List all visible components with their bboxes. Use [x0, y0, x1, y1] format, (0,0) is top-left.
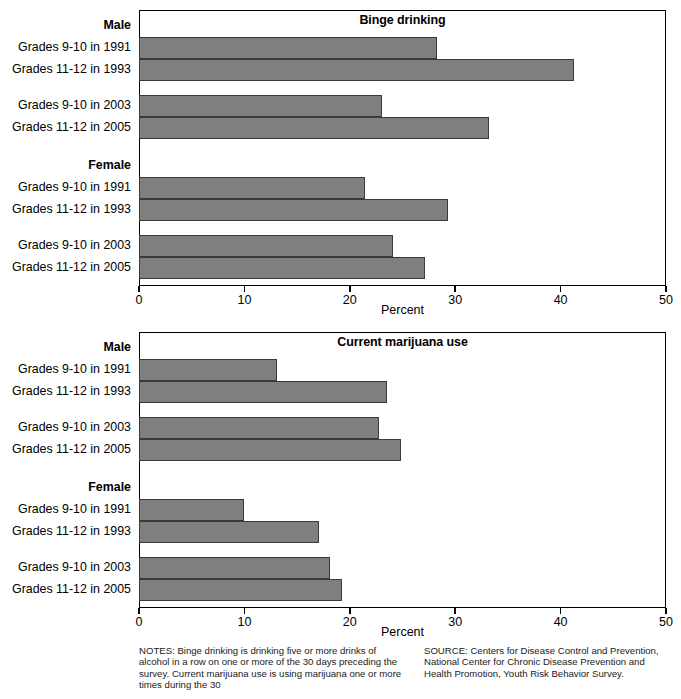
x-tick: [244, 286, 246, 292]
bar-female-1: [139, 199, 448, 221]
source-text: SOURCE: Centers for Disease Control and …: [424, 645, 674, 679]
group-heading-male: Male: [103, 340, 131, 354]
x-tick: [138, 286, 140, 292]
x-tick: [665, 286, 667, 292]
bar-male-2: [139, 95, 382, 117]
bar-male-3: [139, 117, 489, 139]
bars-layer: [139, 10, 666, 286]
category-label: Grades 9-10 in 2003: [18, 238, 131, 252]
category-label: Grades 11-12 in 1993: [12, 524, 131, 538]
category-label: Grades 9-10 in 2003: [18, 560, 131, 574]
category-label: Grades 9-10 in 1991: [18, 180, 131, 194]
category-label: Grades 11-12 in 1993: [12, 62, 131, 76]
category-label: Grades 9-10 in 1991: [18, 362, 131, 376]
bar-female-0: [139, 499, 244, 521]
category-label: Grades 9-10 in 2003: [18, 98, 131, 112]
bar-male-3: [139, 439, 401, 461]
x-tick: [560, 286, 562, 292]
x-tick: [560, 608, 562, 614]
x-tick: [138, 608, 140, 614]
bar-male-1: [139, 59, 574, 81]
bar-female-3: [139, 257, 425, 279]
x-tick: [454, 608, 456, 614]
chart-panel-current-marijuana-use: Current marijuana use MaleGrades 9-10 in…: [0, 322, 681, 634]
bar-male-1: [139, 381, 387, 403]
category-label-column: MaleGrades 9-10 in 1991Grades 11-12 in 1…: [0, 332, 134, 608]
category-label: Grades 9-10 in 2003: [18, 420, 131, 434]
x-axis-title: Percent: [139, 625, 666, 639]
x-tick: [454, 286, 456, 292]
x-axis: 01020304050: [139, 608, 666, 609]
chart-panel-binge-drinking: Binge drinking MaleGrades 9-10 in 1991Gr…: [0, 0, 681, 312]
category-label-column: MaleGrades 9-10 in 1991Grades 11-12 in 1…: [0, 10, 134, 286]
footer: NOTES: Binge drinking is drinking five o…: [0, 645, 681, 699]
bar-female-1: [139, 521, 319, 543]
category-label: Grades 11-12 in 2005: [12, 260, 131, 274]
x-tick: [244, 608, 246, 614]
x-axis: 01020304050: [139, 286, 666, 287]
x-tick: [349, 608, 351, 614]
bar-female-0: [139, 177, 365, 199]
category-label: Grades 9-10 in 1991: [18, 502, 131, 516]
category-label: Grades 9-10 in 1991: [18, 40, 131, 54]
bar-male-0: [139, 359, 277, 381]
category-label: Grades 11-12 in 1993: [12, 384, 131, 398]
bar-female-3: [139, 579, 342, 601]
x-tick: [665, 608, 667, 614]
x-tick: [349, 286, 351, 292]
bar-female-2: [139, 235, 393, 257]
bar-female-2: [139, 557, 330, 579]
group-heading-female: Female: [88, 158, 131, 172]
group-heading-male: Male: [103, 18, 131, 32]
notes-text: NOTES: Binge drinking is drinking five o…: [139, 645, 409, 691]
bar-male-0: [139, 37, 437, 59]
bars-layer: [139, 332, 666, 608]
x-axis-title: Percent: [139, 303, 666, 317]
category-label: Grades 11-12 in 2005: [12, 582, 131, 596]
figure-root: Binge drinking MaleGrades 9-10 in 1991Gr…: [0, 0, 681, 699]
category-label: Grades 11-12 in 1993: [12, 202, 131, 216]
category-label: Grades 11-12 in 2005: [12, 120, 131, 134]
category-label: Grades 11-12 in 2005: [12, 442, 131, 456]
group-heading-female: Female: [88, 480, 131, 494]
bar-male-2: [139, 417, 379, 439]
